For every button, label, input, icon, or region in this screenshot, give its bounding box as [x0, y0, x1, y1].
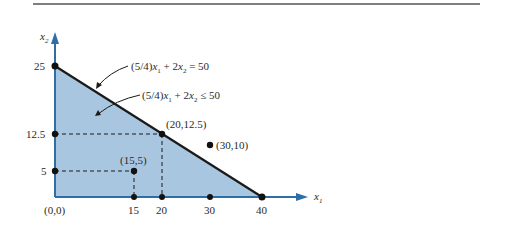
point-y-intercept — [52, 63, 59, 70]
label-30-10: (30,10) — [216, 139, 248, 152]
x-axis-arrow-icon — [296, 193, 308, 201]
label-15-5: (15,5) — [120, 154, 147, 167]
constraint-equation-label: (5/4)x1 + 2x2 = 50 — [131, 60, 210, 75]
point-y-12-5 — [52, 131, 58, 137]
feasible-region-label: (5/4)x1 + 2x2 ≤ 50 — [142, 89, 220, 104]
x-tick-40: 40 — [256, 204, 268, 216]
y-tick-25: 25 — [34, 60, 46, 72]
point-y-5 — [52, 168, 58, 174]
point-15-5 — [131, 168, 137, 174]
point-x-30 — [207, 194, 213, 200]
point-x-15 — [131, 194, 137, 200]
x-tick-30: 30 — [204, 204, 216, 216]
point-x-40 — [259, 194, 266, 201]
y-axis-label: x2 — [39, 30, 49, 45]
point-30-10 — [207, 142, 213, 148]
x-tick-20: 20 — [156, 204, 168, 216]
label-20-12-5: (20,12.5) — [166, 118, 207, 131]
x-axis-label: x1 — [313, 190, 322, 205]
x-tick-15: 15 — [128, 204, 140, 216]
point-20-12-5 — [159, 131, 165, 137]
point-x-20 — [159, 194, 165, 200]
y-tick-5: 5 — [41, 165, 47, 177]
y-tick-12-5: 12.5 — [26, 128, 46, 140]
y-axis-arrow-icon — [51, 32, 59, 44]
arrow-line-label — [98, 66, 128, 86]
lp-feasible-region-diagram: x2 x1 25 12.5 5 (0,0) 15 20 30 40 (20,12… — [0, 0, 508, 230]
origin-label: (0,0) — [44, 204, 65, 217]
